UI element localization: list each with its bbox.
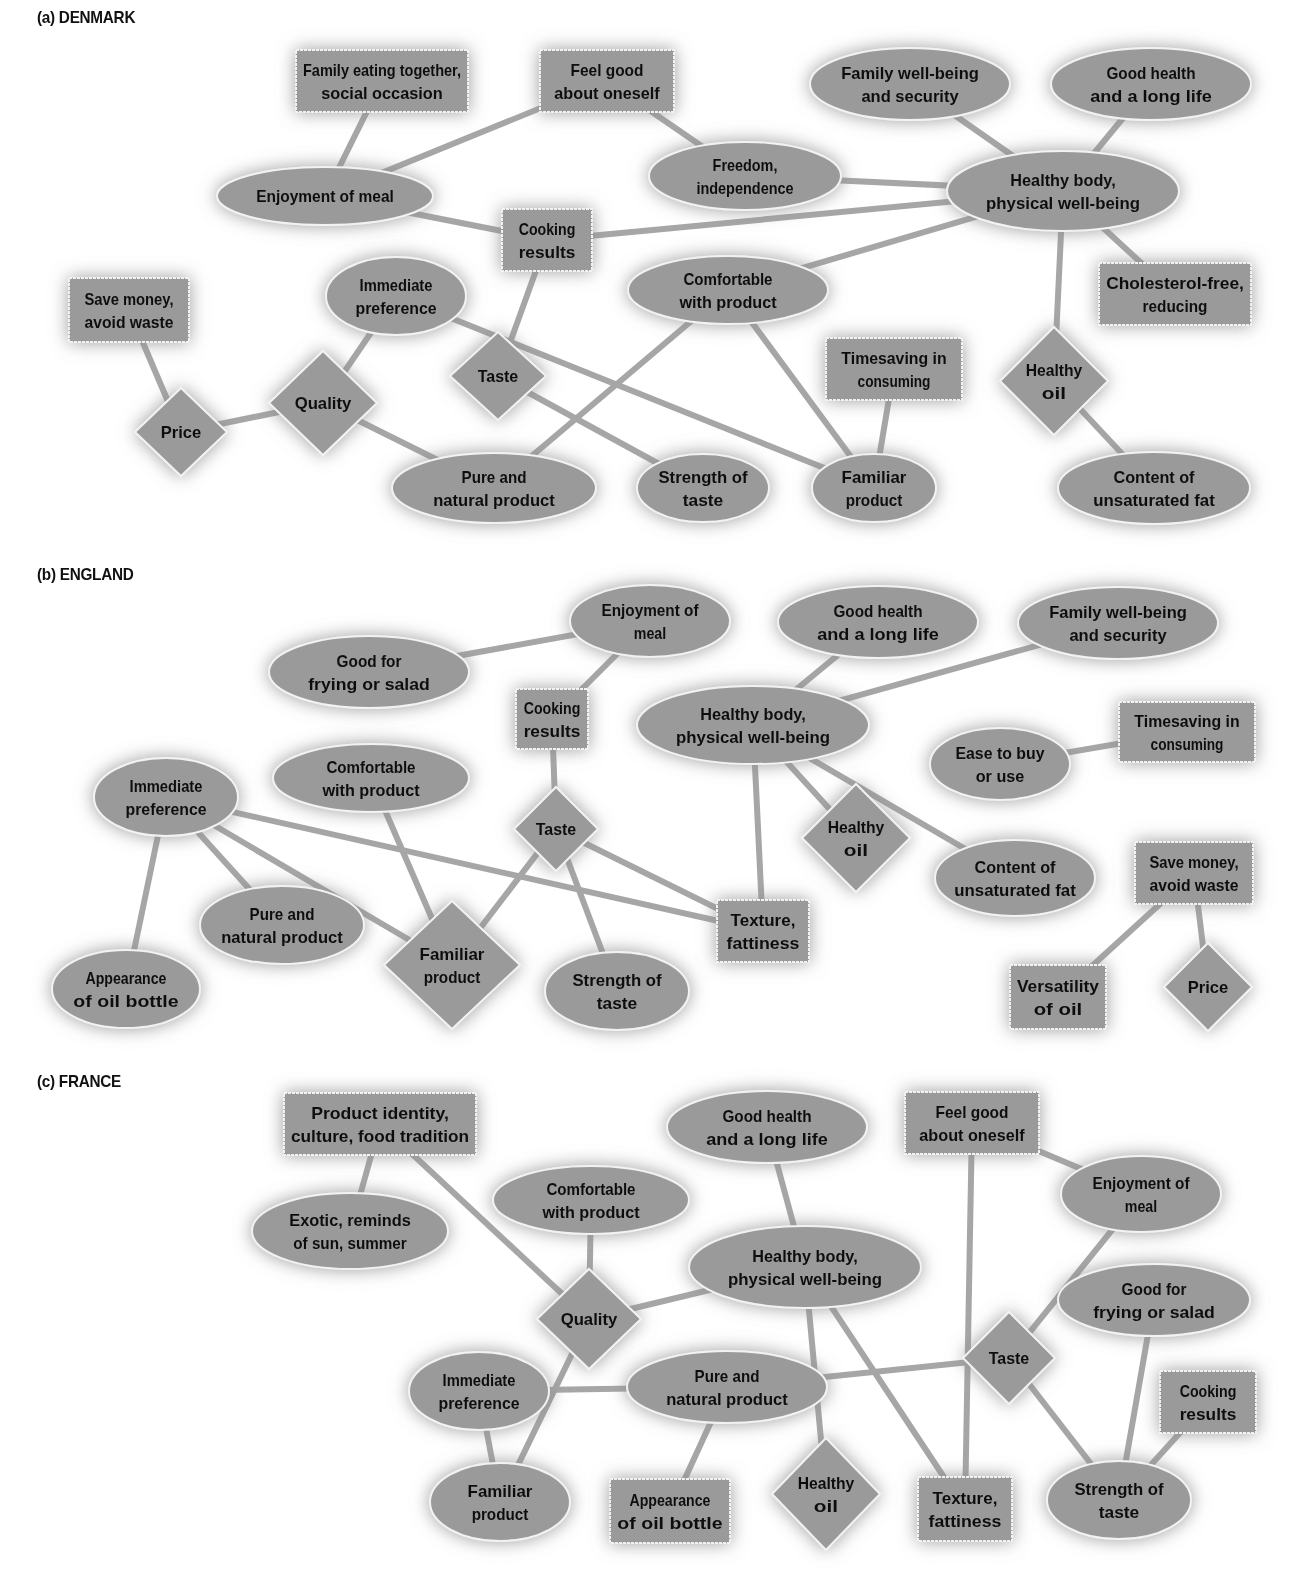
node-label: fattiness [929, 1512, 1002, 1531]
node-france-taste: Taste [963, 1312, 1055, 1404]
node-label: and a long life [706, 1130, 828, 1149]
node-label: Enjoyment of [601, 601, 699, 620]
node-france-good-health: Good healthand a long life [667, 1091, 867, 1163]
node-label: results [519, 243, 576, 262]
node-label: frying or salad [1093, 1303, 1215, 1322]
node-label: Strength of [572, 971, 661, 990]
node-label: of oil bottle [73, 992, 178, 1011]
node-label: or use [976, 767, 1025, 786]
node-label: consuming [858, 372, 931, 391]
node-denmark-healthy-body: Healthy body,physical well-being [947, 151, 1179, 231]
node-label: with product [541, 1203, 639, 1222]
node-label: with product [321, 781, 419, 800]
node-denmark-cooking-results: Cookingresults [502, 209, 592, 271]
node-label: consuming [1151, 735, 1224, 754]
node-england-good-frying: Good forfrying or salad [269, 636, 469, 708]
node-label: Appearance [86, 969, 167, 988]
node-england-good-health: Good healthand a long life [778, 586, 978, 658]
node-france-strength: Strength oftaste [1047, 1461, 1191, 1539]
node-label: reducing [1143, 297, 1208, 316]
node-label: Product identity, [311, 1104, 449, 1123]
edge-france-feel_good-texture [965, 1123, 972, 1509]
node-label: Freedom, [713, 156, 778, 175]
means-end-chain-diagram: Family eating together,social occasionFe… [0, 0, 1316, 1592]
node-label: Good for [337, 652, 402, 671]
node-label: and a long life [1090, 87, 1212, 106]
node-denmark-immediate-pref: Immediatepreference [326, 257, 466, 335]
node-label: Versatility [1017, 977, 1100, 996]
node-label: and security [861, 87, 959, 106]
node-label: Taste [478, 367, 519, 386]
node-label: Family well-being [1049, 603, 1187, 622]
node-denmark-strength: Strength oftaste [637, 454, 769, 522]
node-france-feel-good: Feel goodabout oneself [905, 1092, 1039, 1154]
node-label: Price [1188, 978, 1229, 997]
node-denmark-pure-natural: Pure andnatural product [392, 453, 596, 523]
node-denmark-cholesterol: Cholesterol-free,reducing [1099, 263, 1251, 325]
node-label: natural product [221, 928, 343, 947]
node-label: Healthy [798, 1474, 855, 1493]
node-england-healthy-body: Healthy body,physical well-being [637, 686, 869, 764]
node-label: Quality [295, 394, 352, 413]
node-denmark-price: Price [135, 388, 227, 476]
node-label: and security [1069, 626, 1167, 645]
node-england-save-money: Save money,avoid waste [1135, 842, 1253, 904]
node-label: oil [1042, 384, 1066, 403]
node-label: Family eating together, [303, 61, 461, 80]
node-england-pure-natural: Pure andnatural product [200, 886, 364, 964]
node-denmark-timesaving: Timesaving inconsuming [826, 338, 962, 400]
node-label: Familiar [420, 945, 485, 964]
node-label: Familiar [842, 468, 907, 487]
node-denmark-familiar: Familiarproduct [812, 454, 936, 522]
node-label: results [1180, 1405, 1237, 1424]
node-label: Texture, [933, 1489, 998, 1508]
node-label: Good health [833, 602, 922, 621]
node-england-ease-buy: Ease to buyor use [930, 728, 1070, 800]
node-label: Save money, [84, 290, 173, 309]
node-label: Feel good [571, 61, 644, 80]
node-england-strength: Strength oftaste [545, 952, 689, 1030]
node-label: Cooking [524, 699, 581, 718]
node-label: natural product [433, 491, 555, 510]
node-label: Exotic, reminds [289, 1211, 411, 1230]
node-france-healthy-oil: Healthyoil [772, 1438, 880, 1550]
node-label: oil [844, 841, 868, 860]
node-label: physical well-being [728, 1270, 882, 1289]
node-england-price: Price [1164, 943, 1252, 1031]
node-label: Enjoyment of [1092, 1174, 1190, 1193]
node-england-enjoyment: Enjoyment ofmeal [570, 585, 730, 657]
node-label: avoid waste [84, 313, 173, 332]
node-label: Healthy body, [700, 705, 805, 724]
node-label: Cooking [519, 220, 576, 239]
node-label: Cooking [1180, 1382, 1237, 1401]
node-label: Good health [722, 1107, 811, 1126]
node-england-appearance: Appearanceof oil bottle [52, 950, 200, 1028]
node-label: natural product [666, 1390, 788, 1409]
node-england-comfortable: Comfortablewith product [273, 744, 469, 812]
node-label: Comfortable [326, 758, 415, 777]
node-label: Content of [1114, 468, 1195, 487]
node-label: about oneself [919, 1126, 1025, 1145]
node-label: Pure and [462, 468, 527, 487]
node-label: frying or salad [308, 675, 430, 694]
node-label: Taste [536, 820, 577, 839]
node-label: Family well-being [841, 64, 979, 83]
node-label: taste [683, 491, 724, 510]
node-label: independence [696, 179, 793, 198]
node-label: product [846, 491, 903, 510]
node-france-healthy-body: Healthy body,physical well-being [689, 1226, 921, 1308]
node-england-familiar: Familiarproduct [384, 901, 520, 1029]
node-label: Good health [1106, 64, 1195, 83]
node-england-content-fat: Content ofunsaturated fat [935, 840, 1095, 916]
node-france-appearance: Appearanceof oil bottle [610, 1479, 730, 1543]
node-label: Comfortable [546, 1180, 635, 1199]
node-label: unsaturated fat [954, 881, 1076, 900]
node-label: Cholesterol-free, [1106, 274, 1244, 293]
node-france-comfortable: Comfortablewith product [493, 1166, 689, 1234]
node-label: Price [161, 423, 202, 442]
node-england-cooking-results: Cookingresults [516, 689, 588, 749]
node-france-product-identity: Product identity,culture, food tradition [284, 1093, 476, 1155]
node-label: Healthy body, [752, 1247, 857, 1266]
node-label: Save money, [1149, 853, 1238, 872]
node-label: preference [126, 800, 207, 819]
